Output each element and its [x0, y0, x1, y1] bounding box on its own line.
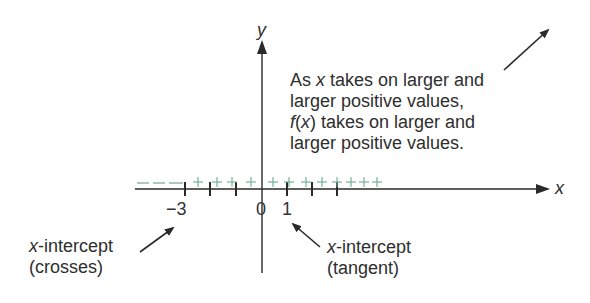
end-behavior-line-1: As x takes on larger and — [290, 70, 484, 91]
end-behavior-arrow — [504, 30, 548, 70]
tangent-arrow — [293, 224, 320, 247]
crosses-line-1: x-intercept — [29, 236, 113, 257]
crosses-annotation: x-intercept (crosses) — [29, 236, 113, 278]
tangent-annotation: x-intercept (tangent) — [327, 237, 411, 279]
end-behavior-line-2: larger positive values, — [290, 91, 484, 112]
tick-label-1: 1 — [282, 199, 292, 220]
crosses-arrow — [140, 228, 173, 252]
crosses-line-2: (crosses) — [29, 257, 113, 278]
x-axis-label: x — [555, 178, 564, 199]
y-axis-label: y — [257, 20, 266, 41]
tangent-line-1: x-intercept — [327, 237, 411, 258]
tick-label-neg3: −3 — [166, 199, 187, 220]
tick-label-0: 0 — [256, 199, 266, 220]
tangent-line-2: (tangent) — [327, 258, 411, 279]
end-behavior-annotation: As x takes on larger and larger positive… — [290, 70, 484, 154]
end-behavior-line-3: f(x) takes on larger and — [290, 112, 484, 133]
end-behavior-line-4: larger positive values. — [290, 133, 484, 154]
